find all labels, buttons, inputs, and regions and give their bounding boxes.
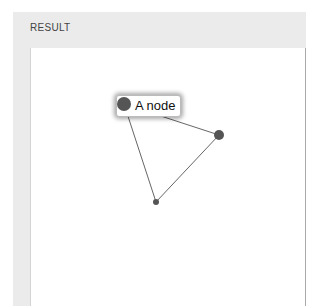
edge-n1-n3 xyxy=(124,104,156,202)
node-n3[interactable] xyxy=(153,199,159,205)
node-label[interactable]: A node xyxy=(116,95,181,117)
graph-svg xyxy=(0,0,320,306)
edge-n2-n3 xyxy=(156,135,219,202)
node-label-text: A node xyxy=(135,98,176,113)
node-n2[interactable] xyxy=(214,130,224,140)
